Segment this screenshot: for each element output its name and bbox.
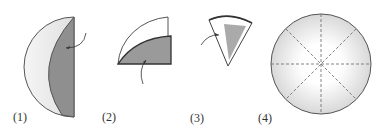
- step-4-creased-circle: [271, 14, 371, 114]
- step-label-2: (2): [102, 110, 116, 125]
- step-3-eighth-wedge: [201, 16, 252, 66]
- step-2-quarter: [118, 17, 171, 84]
- step-label-3: (3): [190, 111, 204, 126]
- step-label-1: (1): [13, 110, 27, 125]
- step-label-4: (4): [258, 111, 272, 126]
- step-1-half-circle: [24, 17, 86, 117]
